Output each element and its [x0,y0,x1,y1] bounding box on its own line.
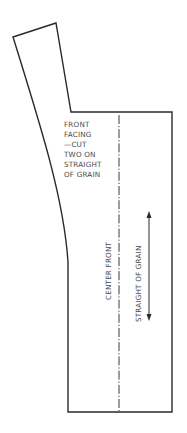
instruction-line: STRAIGHT [64,160,102,169]
grainline-arrow-icon [147,211,152,321]
instruction-line: FRONT [64,120,90,129]
pattern-diagram: FRONT FACING —CUT TWO ON STRAIGHT OF GRA… [0,0,187,433]
instruction-line: OF GRAIN [64,170,100,179]
piece-instructions: FRONT FACING —CUT TWO ON STRAIGHT OF GRA… [63,120,102,179]
grain-label: STRAIGHT OF GRAIN [134,245,143,322]
instruction-line: TWO ON [63,150,96,159]
instruction-line: FACING [64,130,92,139]
instruction-line: —CUT [64,140,87,149]
center-front-label: CENTER FRONT [104,241,113,300]
